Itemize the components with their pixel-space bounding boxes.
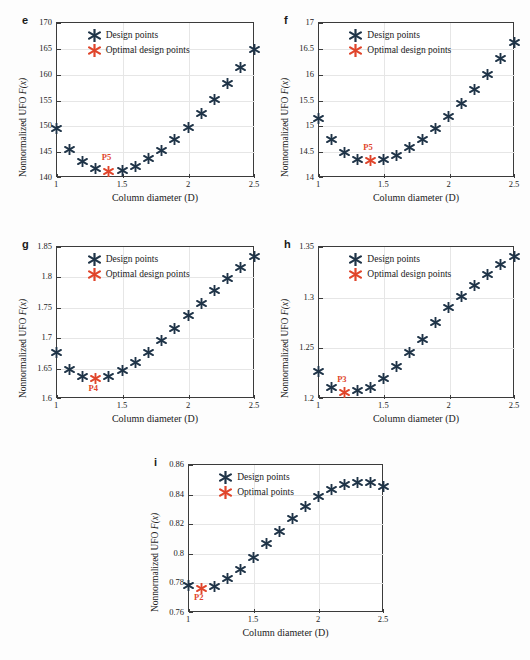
optimal-point-annotation-P3: P3 bbox=[337, 374, 346, 384]
legend-item[interactable]: Design points bbox=[349, 251, 451, 266]
gridline-horizontal bbox=[57, 75, 255, 76]
legend-label: Optimal design points bbox=[367, 269, 451, 279]
legend-star-icon bbox=[219, 485, 232, 498]
legend-item[interactable]: Optimal design points bbox=[88, 266, 190, 281]
x-tick-label: 1.5 bbox=[369, 400, 397, 410]
x-tick-label: 2.5 bbox=[500, 179, 528, 189]
x-tick-label: 2.5 bbox=[500, 400, 528, 410]
legend-star-icon bbox=[88, 43, 101, 56]
gridline-horizontal bbox=[57, 308, 255, 309]
y-tickmark bbox=[189, 524, 193, 525]
legend-item[interactable]: Optimal design points bbox=[349, 42, 451, 57]
y-axis-label-text: Nonnormalized UFO bbox=[280, 94, 290, 177]
x-tickmark bbox=[514, 395, 515, 399]
x-tick-label: 2.5 bbox=[369, 614, 397, 624]
x-tickmark bbox=[189, 395, 190, 399]
x-tick-label: 1.5 bbox=[239, 614, 267, 624]
gridline-horizontal bbox=[319, 348, 515, 349]
y-tickmark bbox=[189, 495, 193, 496]
y-tickmark bbox=[189, 583, 193, 584]
y-tick-label: 16.5 bbox=[284, 43, 314, 53]
legend-item[interactable]: Optimal points bbox=[219, 484, 294, 499]
legend-label: Design points bbox=[367, 30, 420, 40]
legend-e: Design pointsOptimal design points bbox=[88, 27, 190, 57]
y-tickmark bbox=[189, 465, 193, 466]
y-tickmark bbox=[57, 75, 61, 76]
x-tick-label: 1.5 bbox=[108, 179, 136, 189]
y-tickmark bbox=[57, 152, 61, 153]
x-tickmark bbox=[254, 174, 255, 178]
y-tickmark bbox=[319, 49, 323, 50]
x-tickmark bbox=[450, 174, 451, 178]
chart-panel-i: i11.522.50.760.780.80.820.840.86Nonnorma… bbox=[140, 452, 395, 657]
gridline-horizontal bbox=[189, 524, 384, 525]
y-tickmark bbox=[319, 247, 323, 248]
x-tick-label: 2 bbox=[304, 614, 332, 624]
x-tick-label: 1.5 bbox=[369, 179, 397, 189]
x-tickmark bbox=[384, 395, 385, 399]
x-axis-label: Column diameter (D) bbox=[188, 627, 383, 638]
legend-i: Design pointsOptimal points bbox=[219, 469, 294, 499]
gridline-horizontal bbox=[319, 75, 515, 76]
y-tick-label: 0.86 bbox=[154, 459, 184, 469]
legend-item[interactable]: Design points bbox=[349, 27, 451, 42]
gridline-horizontal bbox=[57, 338, 255, 339]
y-tick-label: 0.84 bbox=[154, 489, 184, 499]
x-tickmark bbox=[254, 609, 255, 613]
y-tickmark bbox=[57, 101, 61, 102]
gridline-horizontal bbox=[57, 126, 255, 127]
y-tickmark bbox=[319, 23, 323, 24]
y-tickmark bbox=[57, 369, 61, 370]
y-tick-label: 17 bbox=[284, 17, 314, 27]
chart-panel-f: f11.522.51414.51515.51616.517Nonnormaliz… bbox=[272, 6, 524, 224]
legend-item[interactable]: Design points bbox=[219, 469, 294, 484]
y-tick-label: 170 bbox=[22, 17, 52, 27]
y-axis-label-math: F(x) bbox=[150, 513, 160, 529]
x-axis-label: Column diameter (D) bbox=[318, 192, 514, 203]
gridline-horizontal bbox=[57, 152, 255, 153]
legend-item[interactable]: Design points bbox=[88, 251, 190, 266]
y-tickmark bbox=[57, 308, 61, 309]
y-axis-label: Nonnormalized UFO F(x) bbox=[280, 78, 290, 177]
y-tick-label: 165 bbox=[22, 43, 52, 53]
legend-star-icon bbox=[349, 28, 362, 41]
legend-item[interactable]: Optimal design points bbox=[88, 42, 190, 57]
y-tickmark bbox=[57, 398, 61, 399]
chart-panel-h: h11.522.51.21.251.31.35Nonnormalized UFO… bbox=[272, 232, 524, 444]
legend-item[interactable]: Design points bbox=[88, 27, 190, 42]
y-tickmark bbox=[319, 126, 323, 127]
gridline-horizontal bbox=[319, 152, 515, 153]
y-axis-label-math: F(x) bbox=[280, 78, 290, 94]
legend-label: Design points bbox=[237, 472, 290, 482]
optimal-point-annotation-P4: P4 bbox=[89, 383, 98, 393]
x-tick-label: 1.5 bbox=[108, 400, 136, 410]
y-tickmark bbox=[319, 177, 323, 178]
x-axis-label: Column diameter (D) bbox=[56, 192, 254, 203]
x-tickmark bbox=[384, 174, 385, 178]
y-axis-label: Nonnormalized UFO F(x) bbox=[18, 299, 28, 398]
y-axis-label-math: F(x) bbox=[18, 78, 28, 94]
y-tickmark bbox=[319, 348, 323, 349]
y-tickmark bbox=[57, 126, 61, 127]
x-tick-label: 2.5 bbox=[240, 179, 268, 189]
gridline-horizontal bbox=[57, 369, 255, 370]
legend-label: Design points bbox=[367, 254, 420, 264]
legend-star-icon bbox=[88, 252, 101, 265]
legend-item[interactable]: Optimal design points bbox=[349, 266, 451, 281]
x-tickmark bbox=[514, 174, 515, 178]
gridline-vertical bbox=[319, 465, 320, 613]
gridline-horizontal bbox=[189, 554, 384, 555]
x-tick-label: 2 bbox=[174, 179, 202, 189]
y-tickmark bbox=[319, 152, 323, 153]
y-tickmark bbox=[189, 612, 193, 613]
x-tick-label: 2 bbox=[435, 400, 463, 410]
chart-panel-g: g11.522.51.61.651.71.751.81.85Nonnormali… bbox=[10, 232, 265, 444]
legend-star-icon bbox=[88, 267, 101, 280]
x-tick-label: 2 bbox=[174, 400, 202, 410]
y-tick-label: 1.35 bbox=[284, 241, 314, 251]
legend-star-icon bbox=[88, 28, 101, 41]
y-tick-label: 1.85 bbox=[22, 241, 52, 251]
y-tickmark bbox=[57, 23, 61, 24]
y-axis-label-text: Nonnormalized UFO bbox=[150, 529, 160, 612]
gridline-horizontal bbox=[189, 583, 384, 584]
